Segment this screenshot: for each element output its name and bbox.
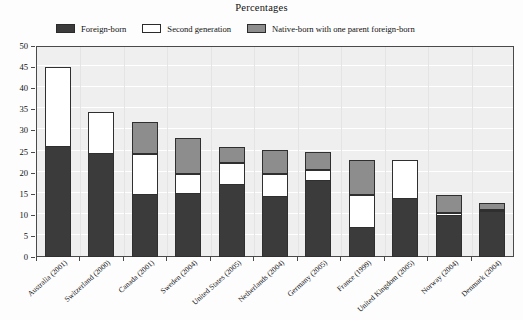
chart-legend: Foreign-born Second generation Native-bo… [56, 21, 476, 36]
bar-segment[interactable] [132, 122, 158, 154]
y-axis-tick-label: 15 [19, 189, 28, 199]
bar-segment[interactable] [479, 210, 505, 213]
bar-series-container [36, 46, 514, 257]
y-axis-tick-label: 45 [19, 62, 28, 72]
legend-swatch-dark-icon [56, 24, 75, 33]
y-axis-tick-mark [31, 152, 35, 153]
y-axis-tick-label: 50 [19, 41, 28, 51]
bar-segment[interactable] [88, 112, 114, 154]
bar-column[interactable] [436, 46, 462, 257]
bar-segment[interactable] [305, 181, 331, 257]
y-axis-tick-label: 35 [19, 104, 28, 114]
x-axis-tick-label: France (1999) [335, 258, 373, 293]
y-axis-tick-mark [31, 109, 35, 110]
bar-segment[interactable] [305, 152, 331, 169]
bar-segment[interactable] [436, 213, 462, 216]
bar-segment[interactable] [219, 185, 245, 257]
y-axis: 05101520253035404550 [0, 46, 33, 257]
y-axis-tick-label: 10 [19, 210, 28, 220]
chart-page: Percentages Foreign-born Second generati… [0, 0, 523, 320]
x-axis-tick-label: Sweden (2004) [159, 258, 199, 296]
legend-swatch-gray-icon [247, 24, 266, 33]
bar-segment[interactable] [349, 195, 375, 229]
y-axis-tick-label: 40 [19, 83, 28, 93]
y-axis-tick-label: 25 [19, 147, 28, 157]
y-axis-tick-mark [31, 67, 35, 68]
bar-column[interactable] [349, 46, 375, 257]
bar-segment[interactable] [305, 170, 331, 181]
bar-column[interactable] [45, 46, 71, 257]
bar-segment[interactable] [479, 203, 505, 209]
bar-segment[interactable] [175, 138, 201, 173]
bar-column[interactable] [392, 46, 418, 257]
y-axis-tick-mark [31, 88, 35, 89]
y-axis-tick-label: 5 [24, 231, 28, 241]
bar-column[interactable] [219, 46, 245, 257]
bar-segment[interactable] [132, 154, 158, 195]
chart-title: Percentages [0, 2, 523, 13]
y-axis-tick-mark [31, 173, 35, 174]
x-axis-tick-label: Germany (2005) [286, 258, 329, 298]
y-axis-tick-mark [31, 215, 35, 216]
legend-swatch-white-icon [142, 24, 161, 33]
bar-segment[interactable] [219, 147, 245, 163]
bar-segment[interactable] [436, 216, 462, 257]
bar-column[interactable] [305, 46, 331, 257]
bar-segment[interactable] [262, 174, 288, 197]
bar-column[interactable] [132, 46, 158, 257]
bar-segment[interactable] [349, 228, 375, 257]
legend-item-foreign-born: Foreign-born [56, 24, 126, 34]
legend-item-native-born-one-parent: Native-born with one parent foreign-born [247, 24, 415, 34]
bar-column[interactable] [175, 46, 201, 257]
bar-segment[interactable] [392, 199, 418, 257]
bar-column[interactable] [262, 46, 288, 257]
bar-segment[interactable] [436, 195, 462, 213]
bar-segment[interactable] [88, 154, 114, 257]
bar-column[interactable] [88, 46, 114, 257]
legend-label-second-generation: Second generation [167, 24, 231, 34]
page-footer-fragment [0, 313, 523, 320]
bar-segment[interactable] [262, 150, 288, 174]
y-axis-tick-mark [31, 130, 35, 131]
legend-item-second-generation: Second generation [142, 24, 231, 34]
bar-segment[interactable] [132, 195, 158, 257]
bar-segment[interactable] [262, 197, 288, 257]
y-axis-tick-label: 30 [19, 125, 28, 135]
x-axis-tick-label: Australia (2001) [26, 258, 69, 298]
x-axis-tick-label: Netherlands (2004) [236, 258, 286, 304]
bar-segment[interactable] [349, 160, 375, 194]
y-axis-tick-mark [31, 236, 35, 237]
bar-segment[interactable] [219, 163, 245, 185]
x-axis-tick-label: Switzerland (2000) [63, 258, 112, 304]
bar-segment[interactable] [175, 174, 201, 194]
x-axis-tick-label: Norway (2004) [419, 258, 460, 296]
x-axis-labels: Australia (2001)Switzerland (2000)Canada… [0, 258, 523, 318]
bar-segment[interactable] [479, 212, 505, 257]
bar-segment[interactable] [45, 67, 71, 147]
legend-label-foreign-born: Foreign-born [81, 24, 126, 34]
legend-label-native-born-one-parent: Native-born with one parent foreign-born [272, 24, 415, 34]
bar-segment[interactable] [45, 147, 71, 257]
x-axis-tick-label: Denmark (2004) [460, 258, 503, 298]
y-axis-tick-label: 20 [19, 168, 28, 178]
bar-column[interactable] [479, 46, 505, 257]
bar-segment[interactable] [392, 160, 418, 198]
bar-segment[interactable] [175, 194, 201, 257]
y-axis-tick-mark [31, 46, 35, 47]
y-axis-tick-mark [31, 194, 35, 195]
x-axis-tick-label: Canada (2001) [116, 258, 155, 295]
